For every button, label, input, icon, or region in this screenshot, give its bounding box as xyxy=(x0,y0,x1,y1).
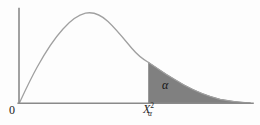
origin-label: 0 xyxy=(9,104,15,116)
chi-square-density-plot xyxy=(0,0,260,125)
chi-square-figure: 0 X2α α xyxy=(0,0,260,125)
density-curve xyxy=(19,13,250,103)
critical-value-label: X2α xyxy=(143,103,158,115)
alpha-area-label: α xyxy=(162,79,168,91)
critical-value-subscript: α xyxy=(148,109,152,118)
